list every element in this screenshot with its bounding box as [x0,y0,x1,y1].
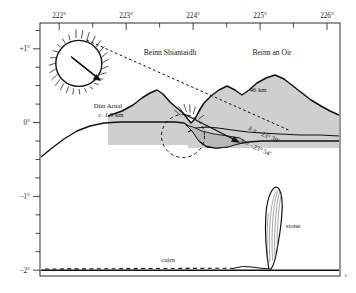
x-tick-label-224: 224° [186,12,200,20]
y-tick-label-minus1: −1° [19,193,30,201]
x-tick-label-225: 225° [253,12,267,20]
y-tick-label-plus1: +1° [19,45,30,53]
label-dun-arnal: Dùn Arnal [94,102,123,109]
x-tick-label-222: 222° [52,12,66,20]
y-tick-label-0: 0° [24,119,31,127]
label-beinn-an-oir: Beinn an Oir [252,48,292,57]
figure-canvas: 222° 223° 224° 225° 226° +1° 0° −1° −2° [0,0,356,293]
horizon-profile-figure: 222° 223° 224° 225° 226° +1° 0° −1° −2° [0,0,356,293]
label-dun-arnal-distance: c. 1.5 km [98,111,124,118]
y-tick-label-minus2: −2° [19,267,30,275]
x-tick-label-226: 226° [320,12,334,20]
x-tick-label-223: 223° [119,12,133,20]
label-cairn: cairn [161,256,175,263]
label-stone: stone [286,222,300,229]
label-beinn-shiantaidh: Beinn Shiantaidh [144,48,197,57]
label-distance-46km: 46 km [249,86,267,93]
